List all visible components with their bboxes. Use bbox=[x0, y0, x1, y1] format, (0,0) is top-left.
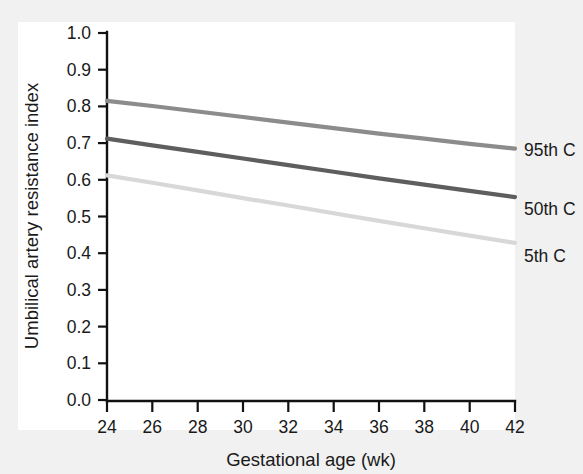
y-tick-label-0.7: 0.7 bbox=[67, 133, 91, 153]
x-tick-label-38: 38 bbox=[415, 417, 434, 437]
y-tick-label-0.9: 0.9 bbox=[67, 60, 91, 80]
x-tick-label-24: 24 bbox=[97, 417, 117, 437]
x-axis-ticks bbox=[107, 401, 515, 412]
series-line-95th bbox=[107, 101, 515, 149]
x-tick-label-36: 36 bbox=[369, 417, 388, 437]
y-tick-label-0.4: 0.4 bbox=[67, 243, 92, 263]
x-tick-label-26: 26 bbox=[143, 417, 162, 437]
series-label-5th: 5th C bbox=[524, 246, 566, 266]
series-label-95th: 95th C bbox=[524, 140, 576, 160]
series-line-5th bbox=[107, 175, 515, 243]
x-tick-label-30: 30 bbox=[233, 417, 253, 437]
x-tick-label-34: 34 bbox=[324, 417, 344, 437]
chart-figure: 1.0 0.9 0.8 0.7 0.6 0.5 0.4 0.3 0.2 0.1 … bbox=[0, 0, 583, 474]
y-tick-label-0.3: 0.3 bbox=[67, 280, 91, 300]
y-tick-label-0.2: 0.2 bbox=[67, 317, 91, 337]
chart-canvas: 1.0 0.9 0.8 0.7 0.6 0.5 0.4 0.3 0.2 0.1 … bbox=[0, 0, 583, 474]
y-tick-label-0.8: 0.8 bbox=[67, 96, 91, 116]
y-axis-tick-labels: 1.0 0.9 0.8 0.7 0.6 0.5 0.4 0.3 0.2 0.1 … bbox=[67, 23, 92, 410]
x-tick-label-28: 28 bbox=[188, 417, 207, 437]
y-axis-ticks bbox=[98, 33, 107, 400]
series-line-50th bbox=[107, 139, 515, 197]
y-tick-label-0.6: 0.6 bbox=[67, 170, 91, 190]
y-axis-title: Umbilical artery resistance index bbox=[21, 82, 42, 349]
x-tick-label-40: 40 bbox=[460, 417, 480, 437]
x-tick-label-32: 32 bbox=[279, 417, 298, 437]
x-axis-title: Gestational age (wk) bbox=[226, 449, 396, 470]
y-tick-label-0.0: 0.0 bbox=[67, 390, 92, 410]
y-tick-label-0.1: 0.1 bbox=[67, 353, 91, 373]
y-tick-label-0.5: 0.5 bbox=[67, 207, 91, 227]
x-axis-tick-labels: 24 26 28 30 32 34 36 38 40 42 bbox=[97, 417, 524, 437]
series-label-50th: 50th C bbox=[524, 199, 576, 219]
x-tick-label-42: 42 bbox=[505, 417, 524, 437]
y-tick-label-1.0: 1.0 bbox=[67, 23, 92, 43]
